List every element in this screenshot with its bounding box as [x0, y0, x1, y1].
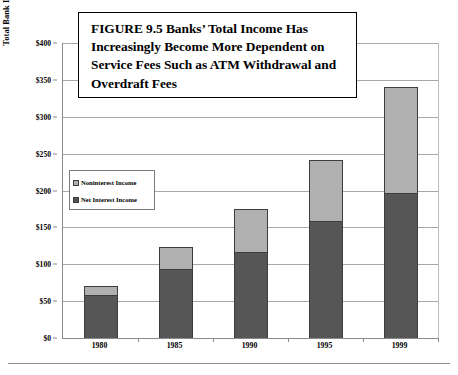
- legend-swatch-icon: [73, 197, 79, 203]
- x-axis-tick-label: 1990: [242, 341, 258, 350]
- bar-segment-net-interest-income: [384, 193, 418, 338]
- y-axis-tick-mark: [53, 338, 57, 339]
- bar-segment-noninterest-income: [384, 87, 418, 194]
- y-axis-tick-mark: [53, 190, 57, 191]
- legend-item-label: Noninterest Income: [81, 180, 136, 187]
- y-axis-tick-label: $200: [18, 186, 51, 195]
- figure-title-text: FIGURE 9.5 Banks’ Total Income Has Incre…: [91, 20, 346, 93]
- y-axis-tick-mark: [53, 227, 57, 228]
- y-axis-tick-label: $150: [18, 223, 51, 232]
- y-axis-tick-label: $0: [18, 334, 51, 343]
- figure-title-box: FIGURE 9.5 Banks’ Total Income Has Incre…: [78, 12, 357, 98]
- bar-segment-net-interest-income: [84, 295, 118, 339]
- bar-segment-net-interest-income: [309, 221, 343, 338]
- y-axis-tick-mark: [53, 79, 57, 80]
- y-axis-tick-label: $350: [18, 75, 51, 84]
- bar-stack: [159, 247, 193, 338]
- y-axis-tick-mark: [53, 43, 57, 44]
- y-axis-tick-label: $100: [18, 260, 51, 269]
- y-axis-tick-label: $250: [18, 149, 51, 158]
- figure-container: Total Bank Interest Income and Fee Incom…: [0, 0, 458, 375]
- y-axis-tick-mark: [53, 264, 57, 265]
- x-axis-tick-label: 1985: [167, 341, 183, 350]
- y-axis-tick-mark: [53, 116, 57, 117]
- bar-segment-noninterest-income: [234, 209, 268, 252]
- bar-stack: [309, 160, 343, 338]
- plot-right-border: [438, 43, 439, 338]
- legend-item: Noninterest Income: [73, 176, 154, 190]
- bar-segment-noninterest-income: [309, 160, 343, 221]
- bar-stack: [384, 87, 418, 338]
- bar-segment-noninterest-income: [159, 247, 193, 269]
- bottom-divider: [8, 363, 450, 364]
- bar-group: [384, 43, 418, 338]
- y-axis-tick-label: $50: [18, 297, 51, 306]
- bar-stack: [234, 209, 268, 338]
- x-axis-tick-labels: 19801985199019951999: [62, 341, 437, 355]
- x-axis-tick-label: 1980: [92, 341, 108, 350]
- bar-stack: [84, 286, 118, 338]
- y-axis-tick-label: $300: [18, 112, 51, 121]
- bar-segment-net-interest-income: [234, 252, 268, 338]
- legend-swatch-icon: [73, 180, 79, 186]
- chart-legend: Noninterest IncomeNet Interest Income: [69, 170, 155, 210]
- bar-segment-net-interest-income: [159, 269, 193, 338]
- bar-segment-noninterest-income: [84, 286, 118, 294]
- x-axis-tick-label: 1995: [317, 341, 333, 350]
- legend-item-label: Net Interest Income: [81, 197, 137, 204]
- y-axis-tick-mark: [53, 301, 57, 302]
- x-axis-tick-mark: [438, 338, 439, 342]
- y-axis-title: Total Bank Interest Income and Fee Incom…: [0, 0, 14, 71]
- y-axis-tick-mark: [53, 153, 57, 154]
- y-axis-tick-label: $400: [18, 39, 51, 48]
- legend-item: Net Interest Income: [73, 193, 154, 207]
- x-axis-tick-label: 1999: [392, 341, 408, 350]
- y-axis-tick-labels: $0$50$100$150$200$250$300$350$400: [24, 43, 57, 338]
